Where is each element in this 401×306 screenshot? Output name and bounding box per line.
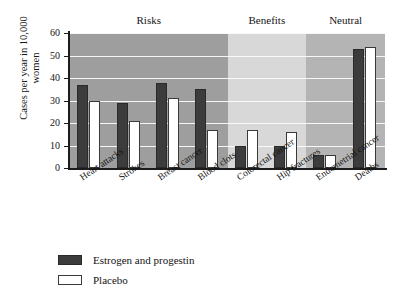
y-axis-title: Cases per year in 10,000 women [18, 8, 42, 128]
y-tick-40 [64, 78, 69, 79]
y-tick-label-30: 30 [36, 96, 60, 106]
y-tick-label-0: 0 [36, 163, 60, 173]
y-tick-60 [64, 33, 69, 34]
y-tick-label-10: 10 [36, 141, 60, 151]
legend-item-placebo: Placebo [58, 272, 194, 287]
bar-heart-attacks-placebo [89, 101, 100, 169]
y-tick-20 [64, 123, 69, 124]
bar-chart: Risks Benefits Neutral Cases per year in… [0, 0, 401, 306]
legend-swatch-dark [58, 255, 82, 265]
gridline-50 [70, 56, 385, 57]
y-tick-50 [64, 56, 69, 57]
y-tick-label-50: 50 [36, 51, 60, 61]
band-header-benefits: Benefits [228, 14, 307, 26]
legend-swatch-light [58, 275, 82, 285]
gridline-30 [70, 101, 385, 102]
gridline-60 [70, 33, 385, 34]
band-header-neutral: Neutral [306, 14, 385, 26]
gridline-40 [70, 78, 385, 79]
legend: Estrogen and progestinPlacebo [58, 252, 194, 292]
band-header-risks: Risks [70, 14, 228, 26]
bar-heart-attacks-treatment [77, 85, 88, 168]
y-tick-30 [64, 101, 69, 102]
y-tick-0 [64, 168, 69, 169]
legend-item-treatment: Estrogen and progestin [58, 252, 194, 267]
y-tick-label-40: 40 [36, 73, 60, 83]
y-tick-10 [64, 146, 69, 147]
legend-label: Estrogen and progestin [93, 254, 194, 266]
y-tick-label-60: 60 [36, 28, 60, 38]
y-tick-label-20: 20 [36, 118, 60, 128]
legend-label: Placebo [93, 274, 128, 286]
bar-breast-cancer-treatment [156, 83, 167, 169]
bar-breast-cancer-placebo [168, 98, 179, 168]
